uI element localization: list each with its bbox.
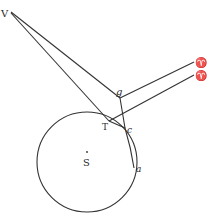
orbit-diagram: V g T c a S ♈ ♈ [0, 0, 218, 220]
aries-lower-icon: ♈ [195, 69, 207, 82]
label-s: S [83, 157, 90, 168]
line-v-t [11, 13, 109, 121]
label-c: c [127, 125, 132, 135]
line-v-g [11, 12, 120, 98]
label-v: V [0, 8, 9, 19]
aries-upper-icon: ♈ [195, 56, 207, 69]
label-g: g [116, 86, 122, 97]
label-a: a [136, 164, 141, 174]
sun-dot [86, 151, 88, 153]
line-g-aries [120, 62, 194, 98]
label-t: T [102, 122, 108, 132]
line-t-aries [109, 75, 194, 121]
